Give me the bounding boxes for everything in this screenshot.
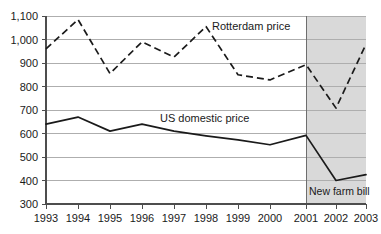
x-tick-label-1996: 1996 [130, 212, 154, 224]
y-tick-label-1000: 1,000 [10, 34, 38, 46]
rotterdam-price-label: Rotterdam price [212, 20, 290, 32]
x-tick-marks-group [46, 204, 366, 209]
x-tick-label-2003: 2003 [354, 212, 378, 224]
x-tick-label-1995: 1995 [98, 212, 122, 224]
rotterdam-price-annotation: Rotterdam price [211, 19, 295, 32]
x-tick-label-2002: 2002 [324, 212, 348, 224]
y-tick-label-300: 300 [20, 198, 38, 210]
chart-container: 1,100 1,000 900 800 700 600 500 400 300 [0, 0, 381, 234]
y-tick-label-400: 400 [20, 175, 38, 187]
x-tick-label-1993: 1993 [34, 212, 58, 224]
y-tick-label-700: 700 [20, 104, 38, 116]
x-tick-label-2001: 2001 [294, 212, 318, 224]
y-tick-label-800: 800 [20, 81, 38, 93]
x-tick-label-1999: 1999 [226, 212, 250, 224]
x-tick-label-1998: 1998 [194, 212, 218, 224]
us-domestic-price-annotation: US domestic price [159, 111, 257, 124]
x-tick-labels-group: 1993 1994 1995 1996 1997 1998 1999 2000 … [34, 212, 378, 224]
new-farm-bill-label: New farm bill [309, 185, 370, 197]
x-tick-label-1997: 1997 [162, 212, 186, 224]
y-tick-labels-group: 1,100 1,000 900 800 700 600 500 400 300 [10, 10, 38, 210]
y-tick-label-600: 600 [20, 128, 38, 140]
y-tick-label-1100: 1,100 [10, 10, 38, 22]
y-tick-label-900: 900 [20, 57, 38, 69]
x-tick-label-1994: 1994 [66, 212, 90, 224]
us-domestic-price-label: US domestic price [160, 112, 249, 124]
line-chart: 1,100 1,000 900 800 700 600 500 400 300 [0, 0, 381, 234]
new-farm-bill-annotation: New farm bill [309, 185, 370, 197]
x-tick-label-2000: 2000 [258, 212, 282, 224]
y-tick-label-500: 500 [20, 151, 38, 163]
